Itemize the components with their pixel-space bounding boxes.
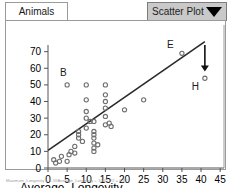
collection-tab-animals[interactable]: Animals — [5, 2, 68, 21]
data-point[interactable] — [180, 51, 184, 55]
y-tick-label: 30 — [30, 113, 42, 124]
data-point[interactable] — [103, 93, 107, 97]
data-point[interactable] — [84, 98, 88, 102]
regression-equation-caption: Maximum_Longevity = 1.59Average_Longevit… — [6, 178, 228, 183]
data-point[interactable] — [84, 83, 88, 87]
data-point[interactable] — [142, 98, 146, 102]
data-point[interactable] — [84, 126, 88, 130]
data-point[interactable] — [103, 83, 107, 87]
point-label-b: B — [60, 67, 67, 78]
data-point[interactable] — [84, 109, 88, 113]
data-point[interactable] — [73, 144, 77, 148]
chevron-down-icon[interactable] — [206, 7, 222, 17]
data-point[interactable] — [103, 114, 107, 118]
data-point[interactable] — [65, 159, 69, 163]
plot-frame: Maximum_Longevity Average_Longevity 0102… — [5, 20, 226, 170]
y-tick-label: 20 — [30, 129, 42, 140]
data-point[interactable] — [65, 83, 69, 87]
data-point[interactable] — [80, 139, 84, 143]
point-label-h: H — [192, 81, 199, 92]
plot-area[interactable]: 010203040506070051015202530354045BEH — [48, 45, 224, 168]
data-point[interactable] — [203, 76, 207, 80]
data-point[interactable] — [57, 159, 61, 163]
y-tick-label: 50 — [30, 79, 42, 90]
plot-type-label: Scatter Plot — [152, 6, 204, 17]
y-tick-label: 70 — [30, 46, 42, 57]
y-tick-label: 10 — [30, 146, 42, 157]
y-tick-label: 40 — [30, 96, 42, 107]
data-point[interactable] — [59, 154, 63, 158]
data-point[interactable] — [73, 151, 77, 155]
plot-type-dropdown[interactable]: Scatter Plot — [147, 2, 227, 21]
data-point[interactable] — [103, 99, 107, 103]
data-point[interactable] — [103, 106, 107, 110]
scatter-svg: 010203040506070051015202530354045BEH — [48, 45, 224, 168]
data-point[interactable] — [109, 124, 113, 128]
regression-line — [48, 42, 205, 151]
data-point[interactable] — [122, 108, 126, 112]
collection-tab-label: Animals — [19, 6, 55, 17]
y-tick-label: 60 — [30, 63, 42, 74]
y-tick-label: 0 — [35, 163, 41, 174]
scatter-plot-window: Animals Scatter Plot Maximum_Longevity A… — [0, 0, 231, 188]
data-point[interactable] — [84, 116, 88, 120]
annotation-arrowhead — [201, 66, 209, 72]
data-point[interactable] — [96, 143, 100, 147]
point-label-e: E — [167, 39, 174, 50]
